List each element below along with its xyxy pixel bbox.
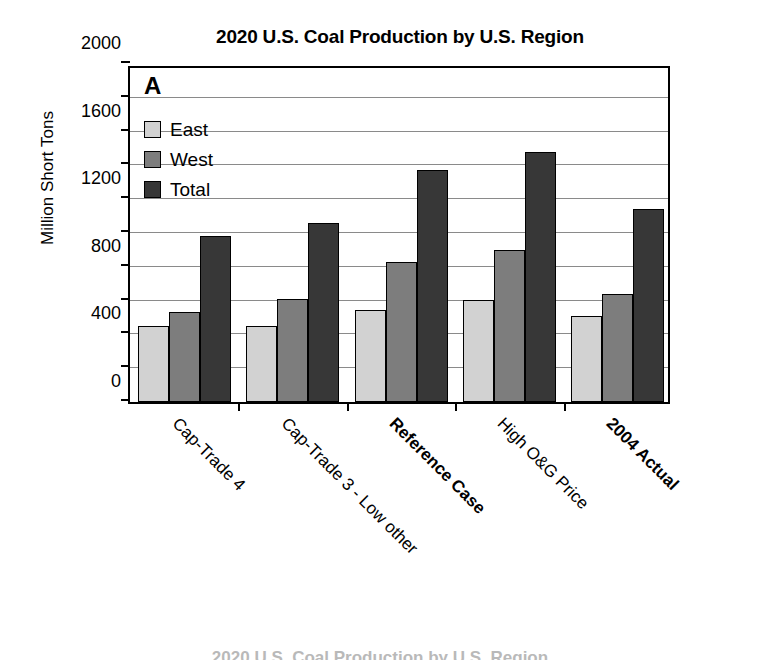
y-tick-major bbox=[121, 196, 130, 198]
y-tick-major bbox=[121, 61, 130, 63]
x-tick bbox=[564, 402, 566, 411]
y-tick-major bbox=[121, 129, 130, 131]
bar-east bbox=[138, 326, 169, 402]
legend-label: West bbox=[170, 150, 213, 169]
bar-east bbox=[463, 300, 494, 402]
bar-total bbox=[200, 236, 231, 402]
y-tick-minor bbox=[121, 230, 130, 232]
x-axis-label: High O&G Price bbox=[493, 414, 593, 514]
x-axis-label: 2004 Actual bbox=[602, 414, 683, 495]
x-tick bbox=[238, 402, 240, 411]
y-axis-title: Million Short Tons bbox=[38, 48, 58, 308]
y-tick-label: 0 bbox=[111, 371, 121, 392]
bar-west bbox=[386, 262, 417, 402]
bar-east bbox=[246, 326, 277, 402]
bar-group bbox=[463, 68, 556, 402]
y-tick-minor bbox=[121, 95, 130, 97]
legend-item: Total bbox=[144, 174, 213, 204]
bar-total bbox=[633, 209, 664, 402]
bar-west bbox=[602, 294, 633, 402]
bar-total bbox=[525, 152, 556, 402]
legend-label: Total bbox=[170, 180, 210, 199]
y-tick-label: 2000 bbox=[81, 33, 121, 54]
bar-group bbox=[246, 68, 339, 402]
bar-total bbox=[308, 223, 339, 402]
y-tick-minor bbox=[121, 365, 130, 367]
y-tick-label: 1600 bbox=[81, 100, 121, 121]
legend-swatch-east bbox=[144, 121, 161, 138]
bar-west bbox=[494, 250, 525, 402]
bar-group bbox=[571, 68, 664, 402]
y-tick-label: 400 bbox=[91, 303, 121, 324]
bar-east bbox=[571, 316, 602, 402]
y-tick-label: 800 bbox=[91, 235, 121, 256]
y-tick-major bbox=[121, 399, 130, 401]
chart-legend: EastWestTotal bbox=[144, 114, 213, 204]
x-axis-label: Reference Case bbox=[385, 414, 489, 518]
legend-swatch-west bbox=[144, 151, 161, 168]
legend-item: West bbox=[144, 144, 213, 174]
bar-west bbox=[169, 312, 200, 402]
bar-group bbox=[355, 68, 448, 402]
x-tick bbox=[455, 402, 457, 411]
bottom-cutoff-caption: 2020 U.S. Coal Production by U.S. Region bbox=[0, 648, 760, 660]
bar-west bbox=[277, 299, 308, 402]
panel-label: A bbox=[144, 72, 161, 100]
legend-label: East bbox=[170, 120, 208, 139]
legend-item: East bbox=[144, 114, 213, 144]
y-tick-minor bbox=[121, 162, 130, 164]
chart-figure: 2020 U.S. Coal Production by U.S. Region… bbox=[0, 0, 760, 660]
x-axis-label: Cap-Trade 4 bbox=[168, 414, 249, 495]
y-tick-label: 1200 bbox=[81, 168, 121, 189]
bar-east bbox=[355, 310, 386, 402]
chart-title: 2020 U.S. Coal Production by U.S. Region bbox=[120, 26, 680, 48]
bar-total bbox=[417, 170, 448, 402]
legend-swatch-total bbox=[144, 181, 161, 198]
y-tick-major bbox=[121, 331, 130, 333]
y-tick-minor bbox=[121, 298, 130, 300]
x-tick bbox=[347, 402, 349, 411]
plot-area: 0400800120016002000 A EastWestTotal bbox=[128, 66, 670, 404]
y-tick-major bbox=[121, 264, 130, 266]
